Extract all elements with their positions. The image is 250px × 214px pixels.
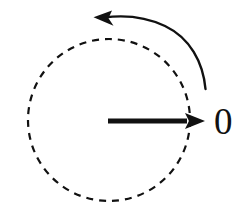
rotation-arc-arrow — [94, 11, 206, 90]
reference-arrow-head — [185, 113, 205, 129]
reference-arrow-shaft — [108, 119, 187, 124]
zero-label: 0 — [214, 103, 233, 140]
reference-arrow — [108, 113, 205, 129]
rotation-arc-arrowhead — [94, 11, 114, 26]
diagram-canvas — [0, 0, 250, 214]
rotation-diagram: 0 — [0, 0, 250, 214]
